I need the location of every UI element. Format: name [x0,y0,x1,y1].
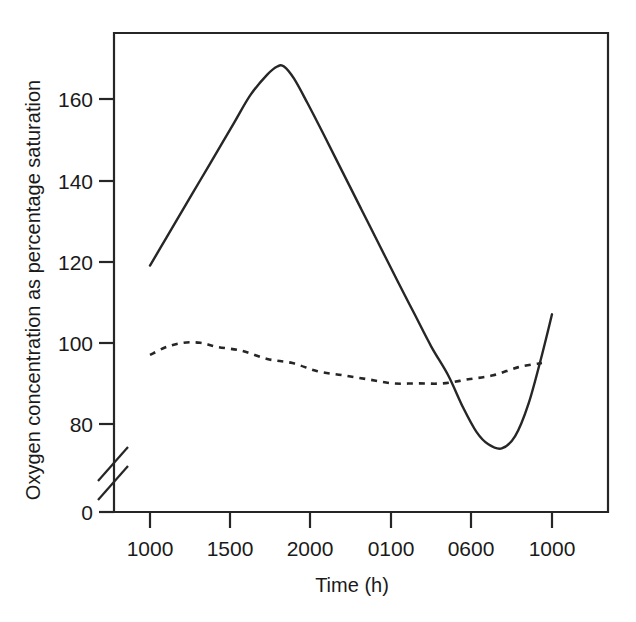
dashed-curve-path [150,342,542,383]
x-tick-label-2: 2000 [287,537,334,560]
plot-frame [114,33,608,512]
chart-figure: 160 140 120 100 80 0 1000 1500 2000 0100… [0,0,636,622]
y-tick-label-100: 100 [58,332,93,355]
x-tick-label-1: 1500 [207,537,254,560]
y-axis-tick-labels: 160 140 120 100 80 0 [58,88,93,524]
x-tick-label-4: 0600 [448,537,495,560]
y-tick-label-160: 160 [58,88,93,111]
y-axis-title: Oxygen concentration as percentage satur… [22,80,44,500]
y-tick-label-0: 0 [81,501,93,524]
y-tick-label-80: 80 [70,413,93,436]
x-tick-label-0: 1000 [127,537,174,560]
x-axis-title: Time (h) [315,574,389,596]
x-tick-label-5: 1000 [529,537,576,560]
data-series-group [150,65,552,449]
chart-svg: 160 140 120 100 80 0 1000 1500 2000 0100… [0,0,636,622]
y-axis-ticks [99,99,114,512]
x-axis-tick-labels: 1000 1500 2000 0100 0600 1000 [127,537,576,560]
y-tick-label-140: 140 [58,170,93,193]
solid-curve-path [150,65,552,449]
x-tick-label-3: 0100 [368,537,415,560]
y-tick-label-120: 120 [58,251,93,274]
x-axis-ticks [150,512,552,528]
